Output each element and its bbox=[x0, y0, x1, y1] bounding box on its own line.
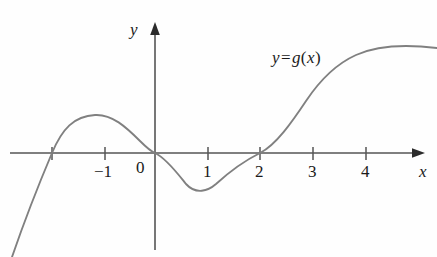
x-axis-arrow-icon bbox=[412, 148, 425, 158]
xtick-label-1: 1 bbox=[203, 163, 212, 180]
equation-argument: x bbox=[307, 48, 315, 67]
curve-equation-label: y=g(x) bbox=[272, 49, 321, 66]
equation-lhs: y bbox=[272, 48, 280, 67]
y-axis-label: y bbox=[130, 21, 138, 38]
xtick-label-3: 3 bbox=[308, 163, 317, 180]
equation-function-name: g bbox=[292, 48, 301, 67]
xtick-label-4: 4 bbox=[361, 163, 370, 180]
origin-label: 0 bbox=[136, 159, 145, 176]
graph-figure: y x 0 −1 1 2 3 4 y=g(x) bbox=[0, 0, 437, 257]
equation-equals-sign: = bbox=[280, 48, 292, 67]
equation-paren-close: ) bbox=[315, 48, 321, 67]
y-axis-arrow-icon bbox=[150, 22, 160, 35]
coordinate-plot bbox=[0, 0, 437, 257]
function-curve bbox=[12, 46, 437, 257]
xtick-label-minus-1: −1 bbox=[94, 163, 112, 180]
x-axis-label: x bbox=[419, 163, 427, 180]
xtick-label-2: 2 bbox=[255, 163, 264, 180]
